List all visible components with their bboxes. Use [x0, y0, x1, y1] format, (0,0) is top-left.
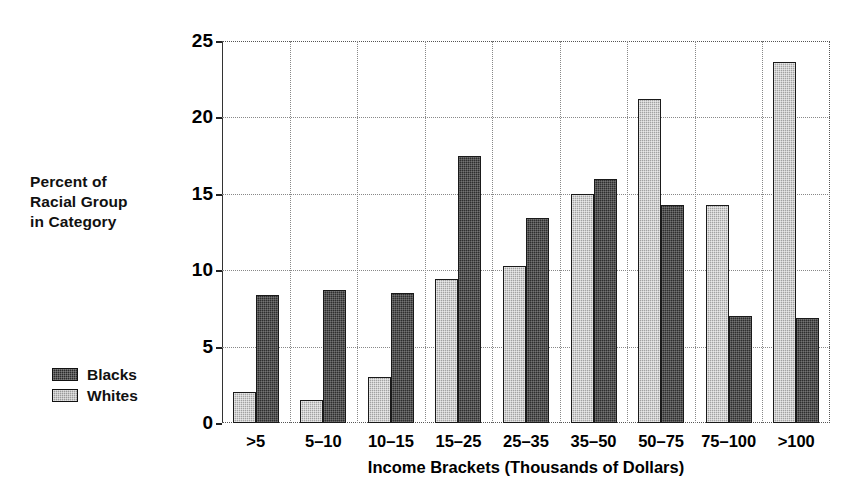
legend-swatch-whites — [52, 389, 78, 402]
y-tick-label-0: 0 — [202, 412, 213, 434]
legend-swatch-blacks — [52, 368, 78, 381]
bar-blacks-7 — [729, 316, 752, 423]
y-tick-label-20: 20 — [192, 106, 213, 128]
bar-blacks-0 — [256, 295, 279, 423]
x-tick-label-7: 75–100 — [701, 432, 756, 451]
legend-item-blacks: Blacks — [52, 364, 192, 385]
bar-whites-8 — [773, 62, 796, 423]
y-tick-mark-0 — [216, 423, 222, 425]
plot-area: 0510152025 >55–1010–1515–2525–3535–5050–… — [222, 41, 830, 423]
y-tick-label-10: 10 — [192, 259, 213, 281]
bars-layer — [222, 41, 830, 423]
bar-whites-4 — [503, 266, 526, 423]
bar-blacks-5 — [594, 179, 617, 423]
x-tick-label-5: 35–50 — [571, 432, 617, 451]
x-tick-label-0: >5 — [246, 432, 265, 451]
y-tick-label-5: 5 — [202, 336, 213, 358]
x-tick-label-6: 50–75 — [638, 432, 684, 451]
bar-whites-7 — [706, 205, 729, 424]
bar-whites-6 — [638, 99, 661, 423]
x-tick-label-8: >100 — [778, 432, 815, 451]
x-tick-label-1: 5–10 — [305, 432, 342, 451]
y-tick-label-15: 15 — [192, 183, 213, 205]
bar-whites-3 — [435, 279, 458, 423]
y-axis-title-line-1: Percent of — [30, 172, 195, 192]
bar-blacks-1 — [323, 290, 346, 423]
bar-chart: Percent of Racial Group in Category Blac… — [0, 0, 858, 498]
bar-blacks-8 — [796, 318, 819, 423]
legend-label-whites: Whites — [87, 388, 138, 404]
bar-whites-0 — [233, 392, 256, 423]
legend-item-whites: Whites — [52, 385, 192, 406]
y-tick-label-25: 25 — [192, 30, 213, 52]
legend-label-blacks: Blacks — [87, 367, 137, 383]
bar-blacks-4 — [526, 218, 549, 423]
y-axis-title: Percent of Racial Group in Category — [30, 172, 195, 232]
bar-blacks-6 — [661, 205, 684, 424]
bar-whites-5 — [571, 194, 594, 423]
y-axis-title-line-3: in Category — [30, 212, 195, 232]
bar-blacks-2 — [391, 293, 414, 423]
y-axis-title-line-2: Racial Group — [30, 192, 195, 212]
bar-whites-2 — [368, 377, 391, 423]
bar-whites-1 — [300, 400, 323, 423]
bar-blacks-3 — [458, 156, 481, 423]
x-tick-label-2: 10–15 — [368, 432, 414, 451]
x-tick-label-3: 15–25 — [435, 432, 481, 451]
chart-legend: Blacks Whites — [52, 364, 192, 406]
x-tick-label-4: 25–35 — [503, 432, 549, 451]
x-axis-title: Income Brackets (Thousands of Dollars) — [222, 458, 830, 477]
